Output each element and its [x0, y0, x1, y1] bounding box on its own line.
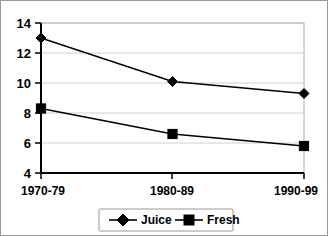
y-tick-label-12: 12 [17, 46, 31, 61]
series-layer [36, 33, 309, 151]
legend-label-juice: Juice [141, 213, 172, 227]
data-point-juice-1980-89 [168, 77, 178, 87]
data-point-juice-1970-79 [36, 33, 46, 43]
square-marker-icon [184, 215, 194, 225]
data-point-fresh-1990-99 [299, 141, 308, 150]
y-tick-label-6: 6 [24, 136, 31, 151]
x-tick-label-1970-79: 1970-79 [21, 184, 65, 198]
line-chart: 14 12 10 8 6 4 1970-79 1980-89 1990-99 J… [1, 1, 328, 236]
x-tick-label-1990-99: 1990-99 [274, 184, 318, 198]
series-line-fresh [41, 109, 304, 147]
chart-container: 14 12 10 8 6 4 1970-79 1980-89 1990-99 J… [0, 0, 328, 236]
y-tick-label-4: 4 [24, 166, 32, 181]
legend-label-fresh: Fresh [207, 213, 240, 227]
y-tick-label-10: 10 [17, 76, 31, 91]
data-point-fresh-1970-79 [36, 104, 45, 113]
y-tick-label-14: 14 [17, 16, 32, 31]
plot-area-border [41, 23, 304, 173]
series-fresh [36, 104, 308, 151]
data-point-fresh-1980-89 [168, 129, 177, 138]
data-point-juice-1990-99 [299, 89, 309, 99]
chart-legend: Juice Fresh [99, 209, 240, 231]
x-tick-label-1980-89: 1980-89 [150, 184, 194, 198]
y-tick-label-8: 8 [24, 106, 31, 121]
series-juice [36, 33, 309, 99]
